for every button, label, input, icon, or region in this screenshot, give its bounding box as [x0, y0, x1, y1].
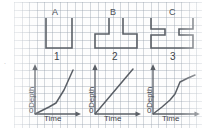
graph-1: 0 Depth Time	[18, 62, 82, 128]
left-margin-mark: .	[4, 59, 9, 65]
container-b-shape	[92, 16, 140, 52]
container-number-2: 2	[112, 52, 118, 62]
graph-2-origin-label: 0	[89, 107, 93, 115]
container-number-3: 3	[170, 52, 176, 62]
graph-1-x-label: Time	[44, 115, 61, 123]
container-c-shape	[147, 16, 199, 52]
graph-2-x-label: Time	[104, 115, 121, 123]
container-number-1: 1	[54, 52, 60, 62]
grid-paper-panel: A 1 B 2 C 3 0	[14, 2, 202, 128]
graph-1-origin-label: 0	[29, 107, 33, 115]
graph-3-origin-label: 0	[147, 107, 151, 115]
graph-3-y-label: Depth	[146, 87, 154, 108]
figure-root: . A 1 B 2 C 3	[0, 0, 203, 128]
graph-3: 0 Depth Time	[136, 62, 202, 128]
graph-2-y-label: Depth	[88, 87, 96, 108]
container-a-shape	[42, 16, 76, 52]
graph-2: 0 Depth Time	[78, 62, 142, 128]
graph-3-x-label: Time	[162, 115, 179, 123]
graph-1-y-label: Depth	[28, 87, 36, 108]
